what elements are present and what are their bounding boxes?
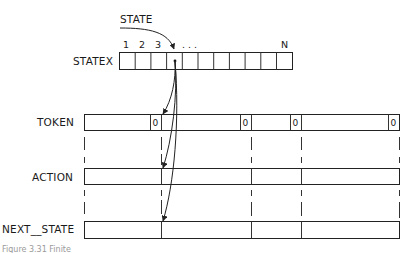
statex-index-n: N [281,39,288,50]
statex-label: STATEX [73,55,113,67]
token-zero-1: 0 [153,118,159,128]
action-label: ACTION [32,171,73,183]
state-table-diagram: STATE 1 2 3 . . . N STATEX TOKEN 0 0 0 0 [0,0,414,253]
action-array [85,169,400,185]
figure-caption: Figure 3.31 Finite [2,245,71,253]
state-label: STATE [120,13,153,25]
statex-index-3: 3 [155,39,161,50]
statex-index-1: 1 [123,39,129,50]
arrow-to-token [163,61,175,114]
next-state-label: NEXT__STATE [2,223,74,236]
token-label: TOKEN [36,116,74,128]
token-zero-3: 0 [293,118,299,128]
token-zero-2: 0 [243,118,249,128]
statex-array [120,53,293,70]
alignment-guides-lower [85,190,400,218]
alignment-guides-upper [85,137,400,165]
token-zero-4: 0 [391,118,397,128]
next-state-array [85,222,400,239]
statex-index-2: 2 [139,39,145,50]
statex-ellipsis: . . . [182,39,197,50]
